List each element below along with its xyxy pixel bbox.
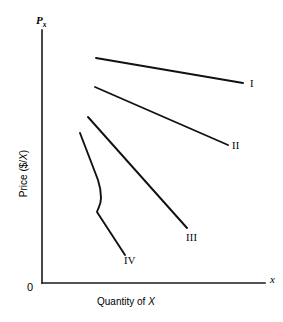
curve-iii xyxy=(88,117,187,228)
curves-group xyxy=(80,58,243,255)
curve-label-iv: IV xyxy=(124,256,135,267)
x-axis-symbol: x xyxy=(270,274,275,285)
y-axis-label: Price ($/X) xyxy=(18,104,29,244)
curve-label-iii: III xyxy=(186,233,197,244)
y-axis-label-wrapper: Price ($/X) xyxy=(0,0,40,260)
x-axis-label: Quantity of X xyxy=(97,297,155,307)
figure-container: Px x 0 Price ($/X) Quantity of X I II II… xyxy=(0,0,283,322)
curve-ii xyxy=(95,87,228,145)
curve-i xyxy=(96,58,243,83)
curve-label-i: I xyxy=(250,79,254,90)
curve-label-ii: II xyxy=(232,141,239,152)
origin-label: 0 xyxy=(27,282,33,293)
chart-plot-area xyxy=(0,0,283,322)
